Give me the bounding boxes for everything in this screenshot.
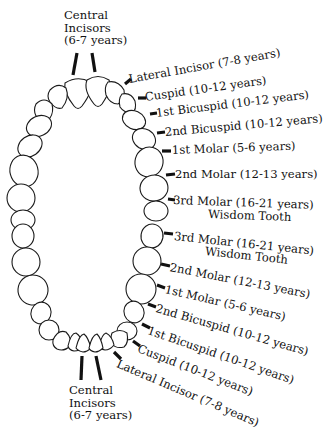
lower-central-pointer-left (81, 356, 82, 380)
lower-2nd-molar-left (12, 248, 40, 276)
lower-1st-molar-right (126, 274, 156, 304)
upper-2nd-molar-left (7, 184, 35, 212)
upper-1st-molar-right (132, 144, 167, 180)
lower-1st-molar-pointer (157, 285, 165, 288)
upper-central-line3: (6-7 years) (64, 34, 127, 47)
lower-central-line3: (6-7 years) (69, 409, 132, 422)
upper-2nd-bicuspid-pointer (157, 132, 165, 133)
upper-central-line1: Central (64, 9, 127, 22)
lower-2nd-molar-right (133, 247, 161, 275)
lower-2nd-bicuspid-pointer (148, 304, 156, 307)
lower-3rd-molar-left (12, 224, 34, 248)
upper-2nd-molar-right (138, 173, 170, 203)
lower-3rd-molar-pointer (164, 233, 173, 234)
upper-central-incisors-label: Central Incisors (6-7 years) (64, 9, 127, 47)
upper-central-pointer-left (73, 53, 77, 75)
upper-central-pointer-right (92, 53, 95, 72)
lower-2nd-molar-pointer (161, 264, 170, 266)
upper-2nd-molar-label: 2nd Molar (12-13 years) (175, 168, 318, 181)
lower-central-line1: Central (69, 384, 132, 397)
lower-3rd-molar-right (139, 222, 165, 249)
lower-central-incisor-right (89, 334, 103, 352)
upper-2nd-molar-pointer (166, 174, 175, 175)
upper-3rd-molar-right (144, 201, 168, 221)
lower-central-pointer-right (96, 356, 101, 380)
lower-central-incisors-label: Central Incisors (6-7 years) (69, 384, 132, 422)
